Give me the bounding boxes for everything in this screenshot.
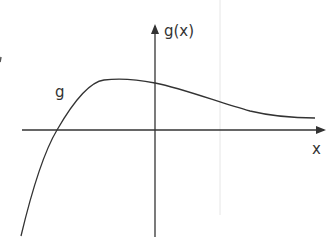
x-axis-label: x [312,140,321,158]
edge-mark [0,57,1,62]
function-graph: g(x) x g [0,0,330,243]
curve-label: g [55,83,65,101]
y-axis-label: g(x) [164,22,194,40]
curve-g [21,79,315,236]
